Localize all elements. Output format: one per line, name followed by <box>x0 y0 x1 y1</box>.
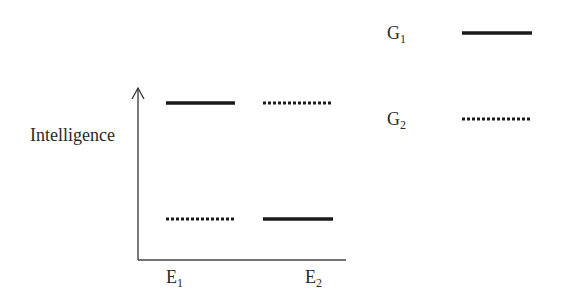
legend-g1-label: G1 <box>387 24 406 42</box>
legend-g2-letter: G <box>387 109 400 129</box>
legend-g2-subscript: 2 <box>400 118 406 132</box>
gxe-interaction-diagram <box>0 0 564 306</box>
x-label-e2-letter: E <box>305 267 316 287</box>
x-label-e1: E1 <box>166 268 183 286</box>
y-axis-label: Intelligence <box>30 126 115 144</box>
legend-g1-subscript: 1 <box>400 32 406 46</box>
x-label-e2: E2 <box>305 268 322 286</box>
y-axis-label-text: Intelligence <box>30 125 115 145</box>
x-label-e1-letter: E <box>166 267 177 287</box>
x-label-e2-subscript: 2 <box>316 276 322 290</box>
x-label-e1-subscript: 1 <box>177 276 183 290</box>
legend-g2-label: G2 <box>387 110 406 128</box>
legend-g1-letter: G <box>387 23 400 43</box>
y-axis <box>132 88 144 260</box>
